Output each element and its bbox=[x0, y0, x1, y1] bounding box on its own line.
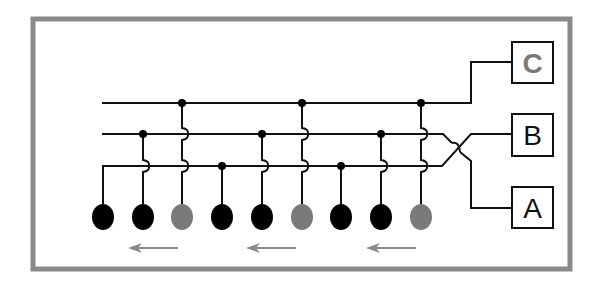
coil-columns bbox=[92, 99, 432, 230]
coil-column-5 bbox=[251, 130, 273, 230]
coil-dot-b bbox=[370, 204, 392, 230]
coil-dot-c bbox=[291, 204, 313, 230]
junction-dot bbox=[337, 162, 345, 170]
left-arrow-icon bbox=[246, 243, 296, 253]
label-box-c: C bbox=[512, 42, 553, 83]
bus-line-c bbox=[102, 62, 512, 103]
bus-wires bbox=[102, 62, 512, 217]
coil-column-4 bbox=[211, 162, 233, 230]
direction-arrows bbox=[128, 243, 416, 253]
coil-dot-b bbox=[132, 204, 154, 230]
left-arrow-icon bbox=[366, 243, 416, 253]
junction-dot bbox=[377, 130, 385, 138]
junction-dot bbox=[178, 99, 186, 107]
junction-dot bbox=[218, 162, 226, 170]
coil-dot-c bbox=[171, 204, 193, 230]
junction-dot bbox=[298, 99, 306, 107]
left-arrow-icon bbox=[128, 243, 178, 253]
coil-column-9 bbox=[410, 99, 432, 230]
coil-column-2 bbox=[132, 130, 154, 230]
coil-dot-c bbox=[410, 204, 432, 230]
label-box-a: A bbox=[512, 187, 553, 228]
drop-wire bbox=[421, 103, 427, 217]
coil-column-1 bbox=[92, 204, 114, 230]
drop-wire bbox=[182, 103, 188, 217]
wiring-diagram: CBA bbox=[0, 0, 605, 284]
coil-column-8 bbox=[370, 130, 392, 230]
coil-column-6 bbox=[291, 99, 313, 230]
junction-dot bbox=[139, 130, 147, 138]
label-text: C bbox=[522, 48, 542, 79]
bus-line-a bbox=[103, 134, 512, 217]
label-text: B bbox=[523, 120, 542, 151]
junction-dot bbox=[417, 99, 425, 107]
coil-column-3 bbox=[171, 99, 193, 230]
junction-dot bbox=[258, 130, 266, 138]
coil-dot-a bbox=[211, 204, 233, 230]
coil-dot-b bbox=[251, 204, 273, 230]
label-box-b: B bbox=[512, 114, 553, 156]
phase-labels: CBA bbox=[512, 42, 553, 228]
coil-column-7 bbox=[330, 162, 352, 230]
coil-dot-a bbox=[330, 204, 352, 230]
label-text: A bbox=[523, 193, 542, 224]
coil-dot-a bbox=[92, 204, 114, 230]
drop-wire bbox=[302, 103, 308, 217]
